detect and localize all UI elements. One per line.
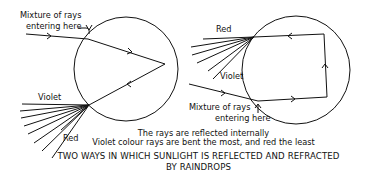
arrow-icon: [322, 64, 328, 68]
left-incoming-ray: [26, 34, 88, 39]
right-violet-label: Violet: [220, 72, 243, 81]
left-entry-label-2: entering here: [26, 22, 82, 31]
figure-title-line-2: BY RAINDROPS: [0, 162, 367, 172]
left-refracted-ray: [88, 39, 165, 64]
caption-line-2: Violet colour rays are bent the most, an…: [0, 137, 367, 147]
right-entry-label-1: Mixture of rays: [189, 103, 250, 112]
right-red-label: Red: [216, 25, 232, 34]
arrow-icon: [86, 25, 92, 30]
figure-title-line-1: TWO WAYS IN WHICH SUNLIGHT IS REFLECTED …: [0, 151, 367, 161]
direction-arrows: [47, 25, 328, 108]
arrow-icon: [127, 81, 131, 87]
arrow-icon: [221, 90, 225, 96]
left-entry-label-1: Mixture of rays: [20, 11, 81, 20]
arrow-icon: [288, 33, 292, 39]
left-violet-label: Violet: [38, 93, 61, 102]
right-entry-label-2: entering here: [215, 114, 271, 123]
